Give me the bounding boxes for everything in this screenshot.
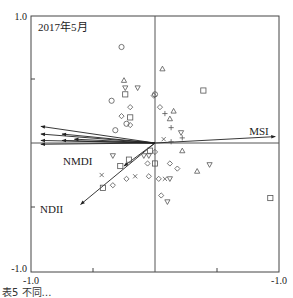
point-triangle-down <box>123 86 128 91</box>
point-triangle-down <box>141 154 146 159</box>
point-circle <box>119 44 124 49</box>
point-triangle-down <box>110 154 115 159</box>
point-triangle <box>195 169 200 174</box>
y-tick-top: 1.0 <box>15 11 28 22</box>
point-square <box>201 88 206 93</box>
point-triangle-down <box>135 86 140 91</box>
point-diamond <box>119 114 124 119</box>
vector-label-ndii: NDII <box>40 203 64 215</box>
point-plus <box>169 139 174 144</box>
point-square <box>118 163 123 168</box>
y-tick-bottom: -1.0 <box>11 263 27 274</box>
point-diamond <box>175 166 180 171</box>
vector-label-msi: MSI <box>249 125 269 137</box>
x-tick-right: -1.0 <box>271 275 287 286</box>
point-diamond <box>157 105 162 110</box>
point-diamond <box>110 183 115 188</box>
point-triangle <box>121 78 126 83</box>
point-circle <box>124 121 129 126</box>
sample-points <box>100 44 273 204</box>
point-diamond <box>151 93 156 98</box>
point-triangle-down <box>165 200 170 205</box>
point-diamond <box>128 105 133 110</box>
point-plus <box>162 111 167 116</box>
point-circle <box>109 98 114 103</box>
vector-label-nmdi: NMDI <box>63 155 93 167</box>
point-triangle-down <box>167 177 172 182</box>
point-square <box>268 195 273 200</box>
point-diamond <box>156 176 161 181</box>
point-circle <box>113 128 118 133</box>
chart-title: 2017年5月 <box>38 20 88 33</box>
point-diamond <box>145 161 150 166</box>
point-triangle <box>171 108 176 113</box>
point-square <box>123 92 128 97</box>
point-triangle <box>167 116 172 121</box>
point-diamond <box>159 193 164 198</box>
point-diamond <box>124 176 129 181</box>
point-triangle <box>180 148 185 153</box>
point-cross <box>162 137 166 141</box>
vector-arrow-ndii <box>81 143 155 204</box>
figure-caption: 表5 不同… <box>2 284 52 298</box>
point-cross <box>133 174 137 178</box>
point-cross <box>163 177 167 181</box>
point-triangle-down <box>178 131 183 136</box>
point-triangle <box>160 66 165 71</box>
point-cross <box>100 173 104 177</box>
point-square <box>128 115 133 120</box>
ticks <box>31 79 217 272</box>
point-diamond <box>167 161 172 166</box>
point-triangle-down <box>207 163 212 168</box>
rda-biplot: 2017年5月 1.0 -1.0 -1.0 -1.0 MSI NMDI NDII <box>0 0 293 298</box>
point-triangle-down <box>146 154 151 159</box>
point-diamond <box>146 174 151 179</box>
point-plus <box>169 125 174 130</box>
point-plus <box>180 135 185 140</box>
